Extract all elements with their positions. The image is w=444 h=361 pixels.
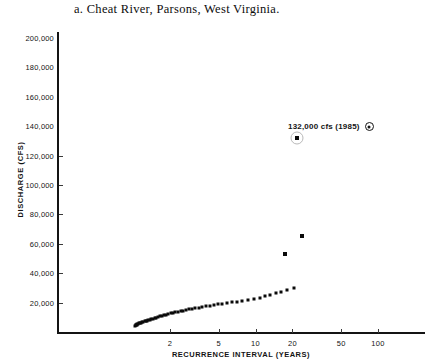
data-point [274, 292, 277, 295]
figure-container: a. Cheat River, Parsons, West Virginia. … [0, 0, 444, 361]
data-point [264, 295, 267, 298]
data-point [285, 288, 288, 291]
data-point [259, 297, 262, 300]
y-tick-label: 100,000 [10, 181, 54, 190]
y-tick-mark [59, 273, 63, 274]
x-tick-mark [378, 329, 379, 333]
y-axis-line [57, 32, 59, 334]
highlighted-point-ring [291, 131, 304, 144]
y-tick-mark [59, 214, 63, 215]
y-tick-label: 40,000 [10, 269, 54, 278]
data-point [300, 234, 304, 238]
data-point [201, 306, 204, 309]
x-tick-mark [170, 329, 171, 333]
y-tick-label: 200,000 [10, 34, 54, 43]
data-point [280, 290, 283, 293]
y-tick-mark [59, 156, 63, 157]
x-tick-label: 5 [216, 339, 220, 348]
annotation-label: 132,000 cfs (1985) [288, 122, 360, 131]
x-tick-mark [292, 329, 293, 333]
x-tick-label: 50 [337, 339, 346, 348]
x-axis-title: RECURRENCE INTERVAL (YEARS) [57, 350, 425, 359]
y-tick-label: 120,000 [10, 152, 54, 161]
x-axis-line [57, 332, 425, 334]
x-tick-mark [219, 329, 220, 333]
figure-title: a. Cheat River, Parsons, West Virginia. [74, 2, 280, 17]
data-point [269, 293, 272, 296]
y-tick-label: 180,000 [10, 63, 54, 72]
y-tick-label: 20,000 [10, 299, 54, 308]
data-point [241, 299, 244, 302]
y-tick-mark [59, 185, 63, 186]
x-tick-label: 20 [288, 339, 297, 348]
data-point [221, 302, 224, 305]
data-point [292, 287, 295, 290]
x-tick-mark [256, 329, 257, 333]
x-tick-label: 10 [251, 339, 260, 348]
y-tick-label: 80,000 [10, 210, 54, 219]
y-tick-label: 140,000 [10, 122, 54, 131]
y-axis-title: DISCHARGE (CFS) [16, 120, 25, 240]
data-point [230, 301, 233, 304]
data-point [216, 303, 219, 306]
data-point [208, 304, 211, 307]
x-tick-mark [341, 329, 342, 333]
annotation-132000-cfs: 132,000 cfs (1985) [288, 122, 374, 131]
data-point [212, 304, 215, 307]
y-tick-label: 60,000 [10, 240, 54, 249]
data-point [225, 302, 228, 305]
data-point [252, 298, 255, 301]
y-tick-mark [59, 303, 63, 304]
y-tick-label: 160,000 [10, 93, 54, 102]
data-point [246, 298, 249, 301]
x-tick-label: 2 [168, 339, 172, 348]
x-tick-label: 100 [371, 339, 384, 348]
y-tick-mark [59, 244, 63, 245]
data-point [204, 305, 207, 308]
circled-dot-marker-icon [365, 122, 374, 131]
data-point [283, 252, 287, 256]
data-point [235, 300, 238, 303]
